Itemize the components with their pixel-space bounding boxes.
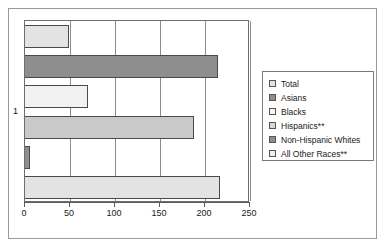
chart-legend: TotalAsiansBlacksHispanics**Non-Hispanic…	[262, 71, 374, 161]
x-tick-label: 250	[234, 208, 264, 219]
legend-item[interactable]: Asians	[269, 91, 373, 104]
legend-label: Asians	[281, 93, 307, 103]
x-tick-label: 0	[9, 208, 39, 219]
legend-swatch-icon	[269, 80, 276, 87]
plot-area	[24, 20, 249, 202]
x-tick-mark	[69, 202, 70, 207]
y-axis-category-label: 1	[13, 106, 18, 117]
legend-swatch-icon	[269, 94, 276, 101]
bar	[25, 25, 69, 48]
legend-label: Total	[281, 79, 299, 89]
legend-item[interactable]: Total	[269, 77, 373, 90]
legend-label: Hispanics**	[281, 121, 324, 131]
x-tick-label: 50	[54, 208, 84, 219]
legend-swatch-icon	[269, 122, 276, 129]
legend-label: Blacks	[281, 107, 306, 117]
bar-group	[25, 21, 248, 201]
x-tick-mark	[204, 202, 205, 207]
bar	[25, 55, 218, 78]
x-tick-mark	[159, 202, 160, 207]
bar	[25, 176, 220, 199]
legend-label: Non-Hispanic Whites	[281, 135, 360, 145]
x-tick-label: 150	[144, 208, 174, 219]
bar	[25, 85, 88, 108]
x-tick-mark	[249, 202, 250, 207]
legend-swatch-icon	[269, 108, 276, 115]
bar	[25, 146, 30, 169]
x-tick-label: 100	[99, 208, 129, 219]
bar-chart-figure: 050100150200250 1 TotalAsiansBlacksHispa…	[0, 0, 386, 249]
legend-item[interactable]: Blacks	[269, 105, 373, 118]
legend-item[interactable]: Hispanics**	[269, 119, 373, 132]
bar	[25, 116, 194, 139]
gridline	[250, 21, 251, 201]
x-tick-mark	[24, 202, 25, 207]
x-tick-mark	[114, 202, 115, 207]
legend-swatch-icon	[269, 136, 276, 143]
legend-swatch-icon	[269, 150, 276, 157]
x-tick-label: 200	[189, 208, 219, 219]
legend-item[interactable]: Non-Hispanic Whites	[269, 133, 373, 146]
legend-item[interactable]: All Other Races**	[269, 147, 373, 160]
legend-label: All Other Races**	[281, 149, 347, 159]
x-axis-line	[24, 202, 249, 203]
